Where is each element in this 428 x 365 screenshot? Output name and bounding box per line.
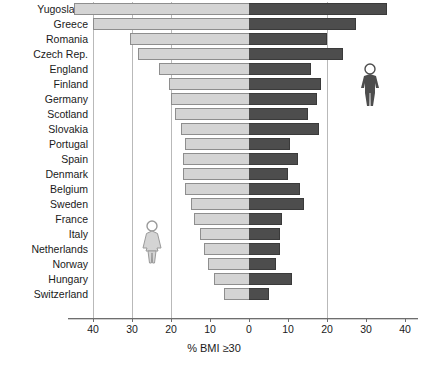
bar-men <box>249 63 311 75</box>
bar-men <box>249 273 292 285</box>
bar-row <box>0 108 428 120</box>
bar-women <box>204 243 249 255</box>
x-tick-mark <box>171 318 172 322</box>
bar-row <box>0 48 428 60</box>
x-tick-label: 20 <box>156 323 186 335</box>
bar-row <box>0 288 428 300</box>
bar-women <box>183 168 249 180</box>
bar-women <box>224 288 249 300</box>
bar-row <box>0 228 428 240</box>
bar-row <box>0 168 428 180</box>
bar-men <box>249 48 343 60</box>
x-axis-title: % BMI ≥30 <box>0 342 428 354</box>
bar-row <box>0 33 428 45</box>
bar-row <box>0 243 428 255</box>
bar-women <box>175 108 249 120</box>
bar-row <box>0 3 428 15</box>
x-tick-label: 0 <box>234 323 264 335</box>
bar-men <box>249 153 298 165</box>
bar-women <box>185 138 249 150</box>
bar-row <box>0 213 428 225</box>
bar-women <box>194 213 249 225</box>
bar-men <box>249 243 280 255</box>
x-tick-label: 20 <box>312 323 342 335</box>
bar-men <box>249 93 317 105</box>
bar-men <box>249 288 269 300</box>
bar-row <box>0 273 428 285</box>
bar-women <box>169 78 249 90</box>
bar-women <box>171 93 249 105</box>
x-tick-mark <box>210 318 211 322</box>
x-tick-mark <box>288 318 289 322</box>
bar-women <box>74 3 250 15</box>
bar-men <box>249 138 290 150</box>
bar-row <box>0 123 428 135</box>
bar-women <box>214 273 249 285</box>
x-tick-mark <box>327 318 328 322</box>
x-tick-label: 40 <box>78 323 108 335</box>
bar-men <box>249 78 321 90</box>
x-tick-label: 30 <box>117 323 147 335</box>
x-tick-mark <box>366 318 367 322</box>
bar-row <box>0 153 428 165</box>
bar-row <box>0 138 428 150</box>
female-figure-icon <box>140 220 164 264</box>
bmi-diverging-bar-chart: Yugoslavia Greece Romania Czech Rep. Eng… <box>0 0 428 365</box>
bar-women <box>191 198 250 210</box>
bar-men <box>249 18 356 30</box>
bar-row <box>0 198 428 210</box>
x-tick-mark <box>405 318 406 322</box>
bar-men <box>249 168 288 180</box>
bar-women <box>200 228 249 240</box>
bar-men <box>249 108 308 120</box>
bar-row <box>0 183 428 195</box>
bar-women <box>130 33 249 45</box>
bar-men <box>249 183 300 195</box>
bar-men <box>249 33 327 45</box>
x-tick-label: 10 <box>273 323 303 335</box>
bar-women <box>181 123 249 135</box>
male-figure-icon <box>357 63 383 107</box>
bar-women <box>185 183 249 195</box>
bar-men <box>249 228 280 240</box>
x-tick-mark <box>132 318 133 322</box>
x-tick-mark <box>93 318 94 322</box>
bar-row <box>0 18 428 30</box>
bar-row <box>0 258 428 270</box>
bar-men <box>249 198 304 210</box>
x-tick-label: 10 <box>195 323 225 335</box>
bar-women <box>93 18 249 30</box>
bar-men <box>249 123 319 135</box>
bar-men <box>249 213 282 225</box>
bar-women <box>138 48 249 60</box>
x-tick-label: 40 <box>390 323 420 335</box>
x-tick-mark <box>249 318 250 322</box>
bar-women <box>159 63 249 75</box>
bar-women <box>183 153 249 165</box>
bar-women <box>208 258 249 270</box>
bar-men <box>249 3 387 15</box>
x-tick-label: 30 <box>351 323 381 335</box>
plot-area: Yugoslavia Greece Romania Czech Rep. Eng… <box>0 0 428 365</box>
bar-men <box>249 258 276 270</box>
